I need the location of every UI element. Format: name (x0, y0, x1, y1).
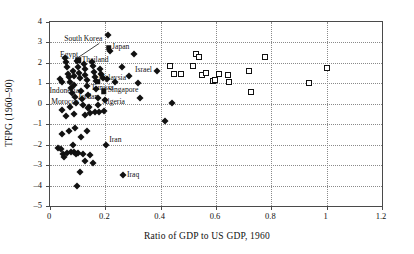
y-tick-label: 3 (0, 37, 42, 46)
point-label: South Korea (64, 35, 102, 43)
data-point-filled-diamond (131, 51, 138, 58)
y-tick-label: 4 (0, 17, 42, 26)
gridline-vertical (327, 22, 328, 206)
data-point-filled-diamond (153, 67, 160, 74)
x-tick-label: 0.4 (154, 212, 165, 221)
y-tick-mark (46, 124, 50, 125)
data-point-filled-diamond (120, 171, 127, 178)
gridline-vertical (216, 22, 217, 206)
x-tick-mark (50, 206, 51, 210)
leader-lines (50, 22, 384, 208)
data-point-open-square (178, 71, 184, 77)
y-tick-mark (46, 145, 50, 146)
data-point-open-square (216, 71, 222, 77)
data-point-filled-diamond (76, 168, 83, 175)
data-point-filled-diamond (161, 117, 168, 124)
data-point-filled-diamond (91, 109, 98, 116)
point-label: Japan (112, 43, 129, 51)
data-point-open-square (226, 79, 232, 85)
gridline-vertical (161, 22, 162, 206)
y-tick-mark (46, 42, 50, 43)
data-point-open-square (203, 70, 209, 76)
y-tick-label: –1 (0, 119, 42, 128)
point-label: Jordan (78, 93, 98, 101)
x-tick-mark (271, 206, 272, 210)
data-point-filled-diamond (125, 73, 132, 80)
y-tick-label: –5 (0, 201, 42, 210)
data-point-open-square (171, 71, 177, 77)
figure: TFPG (1960–90) Ratio of GDP to US GDP, 1… (0, 0, 414, 254)
data-point-filled-diamond (81, 157, 88, 164)
x-tick-label: 1.2 (376, 212, 387, 221)
x-axis-title: Ratio of GDP to US GDP, 1960 (0, 231, 414, 241)
data-point-filled-diamond (87, 152, 94, 159)
y-tick-label: 1 (0, 78, 42, 87)
x-tick-label: 0.6 (210, 212, 221, 221)
x-tick-mark (105, 206, 106, 210)
point-label: Morocco (51, 98, 78, 106)
data-point-filled-diamond (74, 182, 81, 189)
data-point-open-square (248, 89, 254, 95)
x-tick-label: 1 (324, 212, 328, 221)
point-label: Indonesia (50, 87, 80, 95)
data-point-filled-diamond (72, 124, 79, 131)
x-tick-mark (382, 206, 383, 210)
data-point-open-square (262, 54, 268, 60)
data-point-filled-diamond (79, 150, 86, 157)
data-point-open-square (212, 77, 218, 83)
point-label: Egypt (60, 51, 78, 59)
y-tick-label: –2 (0, 139, 42, 148)
data-point-filled-diamond (58, 130, 65, 137)
y-tick-label: –4 (0, 180, 42, 189)
x-tick-mark (327, 206, 328, 210)
data-point-open-square (246, 68, 252, 74)
point-label: Thailand (82, 56, 109, 64)
data-point-open-square (225, 72, 231, 78)
data-point-open-square (167, 63, 173, 69)
data-point-filled-diamond (83, 128, 90, 135)
y-tick-mark (46, 186, 50, 187)
x-tick-label: 0.2 (99, 212, 110, 221)
y-tick-label: 2 (0, 57, 42, 66)
data-point-filled-diamond (119, 64, 126, 71)
x-tick-mark (161, 206, 162, 210)
data-point-open-square (196, 54, 202, 60)
y-tick-mark (46, 22, 50, 23)
data-point-open-square (324, 65, 330, 71)
x-tick-mark (216, 206, 217, 210)
data-point-filled-diamond (77, 133, 84, 140)
y-tick-label: –3 (0, 160, 42, 169)
y-tick-mark (46, 63, 50, 64)
data-point-open-square (190, 63, 196, 69)
point-label: Algeria (102, 98, 125, 106)
plot-area (49, 21, 383, 207)
data-point-filled-diamond (62, 113, 69, 120)
x-tick-label: 0.8 (265, 212, 276, 221)
data-point-filled-square (106, 45, 112, 51)
gridline-vertical (271, 22, 272, 206)
point-label: Iran (109, 136, 121, 144)
point-label: Iraq (127, 171, 139, 179)
y-tick-mark (46, 104, 50, 105)
point-label: Israel (135, 66, 152, 74)
y-tick-mark (46, 165, 50, 166)
data-point-filled-diamond (136, 95, 143, 102)
data-point-filled-diamond (100, 107, 107, 114)
point-label: Malaysia (98, 74, 126, 82)
data-point-filled-diamond (70, 111, 77, 118)
y-tick-mark (46, 83, 50, 84)
data-point-filled-diamond (168, 99, 175, 106)
y-tick-label: 0 (0, 98, 42, 107)
data-point-open-square (306, 80, 312, 86)
x-tick-label: 0 (47, 212, 51, 221)
